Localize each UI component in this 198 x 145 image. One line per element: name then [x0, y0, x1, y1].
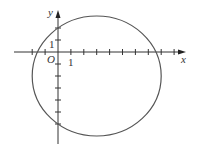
x-unit-label: 1: [68, 56, 74, 68]
origin-label: O: [47, 53, 55, 65]
y-axis-label: y: [47, 6, 53, 18]
y-axis-arrow-icon: [56, 10, 61, 18]
y-unit-label: 1: [49, 38, 55, 50]
x-axis-label: x: [180, 53, 186, 65]
circle: [32, 16, 161, 136]
coordinate-diagram: y x O 1 1: [0, 0, 198, 145]
